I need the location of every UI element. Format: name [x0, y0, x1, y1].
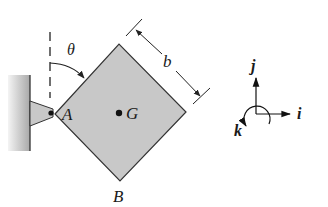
b-label: b — [163, 52, 172, 71]
j-label: j — [248, 57, 256, 75]
pin-a-dot — [48, 110, 53, 115]
k-rotation-arrow — [244, 106, 270, 126]
center-g-dot — [116, 110, 122, 116]
dimension-arrow-upper — [136, 30, 162, 54]
wall-hatch — [8, 75, 30, 151]
theta-arc-arrow — [50, 63, 84, 78]
theta-label: θ — [67, 41, 75, 58]
axes-triad: j i k — [234, 57, 302, 139]
dimension-tick-bottom — [193, 88, 210, 104]
wall-support — [8, 75, 30, 151]
i-label: i — [297, 105, 302, 122]
diagram-canvas: θ b A G B j i k — [0, 0, 328, 207]
dimension-arrow-lower — [176, 71, 200, 96]
a-label: A — [61, 105, 73, 124]
k-label: k — [234, 122, 242, 139]
g-label: G — [126, 104, 138, 123]
b-corner-label: B — [113, 187, 124, 206]
